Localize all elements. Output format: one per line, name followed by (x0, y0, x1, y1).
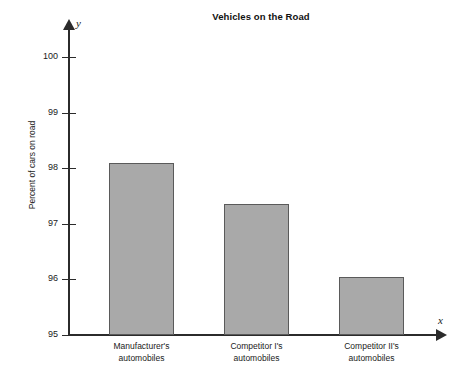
bar[interactable] (224, 204, 289, 335)
category-label-line: automobiles (77, 353, 207, 365)
category-label: Competitor I'sautomobiles (192, 341, 322, 364)
category-label-line: automobiles (192, 353, 322, 365)
category-label: Competitor II'sautomobiles (307, 341, 437, 364)
y-axis-arrow-icon (63, 19, 75, 30)
tick-mark (62, 57, 76, 58)
bar[interactable] (109, 163, 174, 335)
tick-label: 95 (28, 329, 58, 339)
y-axis-line (68, 28, 70, 336)
tick-label: 97 (28, 218, 58, 228)
tick-mark (62, 168, 76, 169)
y-axis-name: y (76, 17, 81, 29)
tick-label: 98 (28, 162, 58, 172)
tick-label: 96 (28, 273, 58, 283)
tick-mark (62, 113, 76, 114)
tick-label: 100 (28, 51, 58, 61)
category-label: Manufacturer'sautomobiles (77, 341, 207, 364)
x-axis-arrow-icon (436, 329, 447, 341)
category-label-line: automobiles (307, 353, 437, 365)
bar-chart: Vehicles on the Road Percent of cars on … (0, 0, 472, 379)
bar[interactable] (339, 277, 404, 335)
x-axis-name: x (438, 314, 443, 326)
tick-mark (62, 279, 76, 280)
tick-mark (62, 335, 76, 336)
category-label-line: Competitor II's (307, 341, 437, 353)
tick-label: 99 (28, 107, 58, 117)
category-label-line: Competitor I's (192, 341, 322, 353)
tick-mark (62, 224, 76, 225)
category-label-line: Manufacturer's (77, 341, 207, 353)
